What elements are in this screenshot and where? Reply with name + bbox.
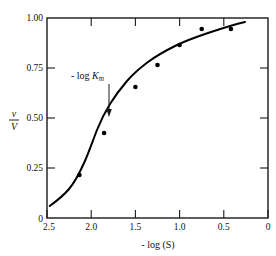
data-point (133, 85, 138, 90)
x-ticklabel-0.5: 0.5 (218, 222, 230, 232)
plot-frame (47, 18, 268, 218)
y-ticklabel-0.75: 0.75 (26, 63, 43, 73)
data-point (155, 63, 160, 68)
data-point (229, 27, 234, 32)
y-axis-title: v V (9, 108, 19, 132)
data-points (77, 27, 233, 178)
data-point (177, 43, 182, 48)
x-axis-title: - log (S) (141, 239, 174, 251)
fitted-curve (50, 22, 245, 206)
y-axis-title-denominator: V (11, 121, 19, 132)
x-ticklabel-0: 0 (266, 222, 271, 232)
y-ticklabel-0.50: 0.50 (26, 113, 43, 123)
x-axis-ticks (47, 210, 268, 218)
x-ticklabel-1.5: 1.5 (129, 222, 141, 232)
data-point (199, 27, 204, 32)
top-axis-ticks (91, 18, 224, 26)
x-ticklabel-2.5: 2.5 (43, 222, 55, 232)
x-axis-title-text: - log (S) (141, 239, 174, 251)
x-tick-labels: 2.5 2.0 1.5 1.0 0.5 0 (43, 222, 271, 232)
svg-text:- log Km: - log Km (71, 70, 104, 83)
y-axis-title-numerator: v (12, 108, 17, 119)
saturation-curve-path (50, 22, 245, 206)
data-point (77, 173, 82, 178)
km-annotation-subscript: m (99, 75, 104, 83)
y-tick-labels: 1.00 0.75 0.50 0.25 0 (26, 13, 43, 224)
x-ticklabel-1.0: 1.0 (174, 222, 186, 232)
x-ticklabel-2.0: 2.0 (85, 222, 97, 232)
axis-box (47, 18, 268, 218)
km-arrow-head-icon (106, 109, 112, 117)
michaelis-menten-chart: 1.00 0.75 0.50 0.25 0 2.5 2.0 1.5 1.0 0.… (0, 0, 276, 256)
km-annotation-prefix: - log (71, 70, 92, 81)
data-point (102, 131, 107, 136)
figure-container: 1.00 0.75 0.50 0.25 0 2.5 2.0 1.5 1.0 0.… (0, 0, 276, 256)
y-ticklabel-0.25: 0.25 (26, 163, 43, 173)
svg-text:- log (S): - log (S) (141, 239, 174, 251)
y-axis-ticks (47, 68, 55, 168)
y-ticklabel-1.00: 1.00 (26, 13, 43, 23)
right-axis-ticks (260, 68, 268, 168)
